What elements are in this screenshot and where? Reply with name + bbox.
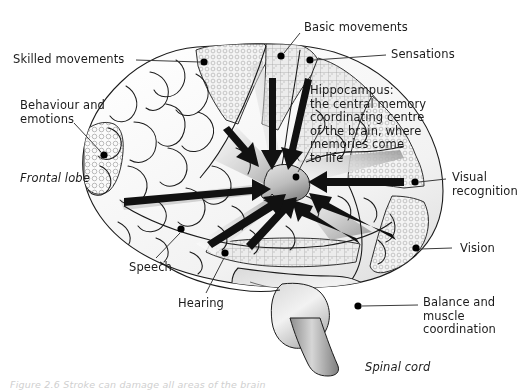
- dot-speech: [177, 225, 184, 232]
- dot-sensations: [306, 56, 313, 63]
- figure-canvas: Skilled movements Behaviour and emotions…: [0, 0, 527, 391]
- figure-caption: Figure 2.6 Stroke can damage all areas o…: [10, 379, 266, 390]
- leader-balance: [362, 305, 418, 306]
- dot-behaviour-and-emotions: [100, 151, 107, 158]
- dot-hearing: [221, 249, 228, 256]
- label-speech: Speech: [129, 261, 172, 275]
- hippocampus-dot: [293, 174, 300, 181]
- label-visual-recognition: Visual recognition: [452, 171, 518, 198]
- label-sensations: Sensations: [391, 48, 455, 62]
- label-balance-and-muscle-coordination: Balance and muscle coordination: [423, 296, 496, 337]
- dot-skilled-movements: [200, 58, 207, 65]
- dot-visual-recognition: [411, 178, 418, 185]
- dot-balance: [354, 302, 361, 309]
- label-hearing: Hearing: [178, 297, 224, 311]
- label-spinal-cord: Spinal cord: [365, 361, 430, 375]
- label-behaviour-and-emotions: Behaviour and emotions: [20, 99, 105, 126]
- label-skilled-movements: Skilled movements: [13, 53, 124, 67]
- leader-vision: [420, 248, 452, 249]
- label-vision: Vision: [460, 242, 495, 256]
- hippocampus-shape: [262, 164, 310, 201]
- label-frontal-lobe: Frontal lobe: [20, 172, 90, 186]
- label-basic-movements: Basic movements: [304, 21, 408, 35]
- dot-vision: [412, 244, 419, 251]
- hippocampus-structure: [262, 164, 310, 201]
- label-hippocampus: Hippocampus: the central memory coordina…: [310, 84, 426, 165]
- dot-basic-movements: [277, 52, 284, 59]
